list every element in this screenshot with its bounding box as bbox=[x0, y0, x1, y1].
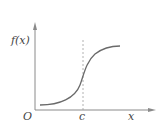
x-axis-arrow-icon bbox=[148, 108, 156, 112]
origin-label: O bbox=[23, 110, 32, 123]
y-axis-arrow-icon bbox=[33, 22, 37, 30]
c-label: c bbox=[79, 110, 85, 123]
function-graph: f(x) O c x bbox=[0, 0, 164, 127]
s-curve bbox=[40, 46, 120, 105]
x-axis-label: x bbox=[128, 110, 135, 123]
y-axis-label: f(x) bbox=[10, 34, 30, 47]
